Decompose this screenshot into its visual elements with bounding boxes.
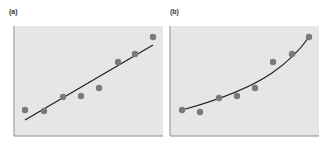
panel-a [14, 26, 163, 136]
panel-a-plot-area [14, 26, 163, 136]
panel-b-plot-area [170, 26, 319, 136]
panel-b [170, 26, 319, 136]
chart-canvas [0, 0, 329, 149]
